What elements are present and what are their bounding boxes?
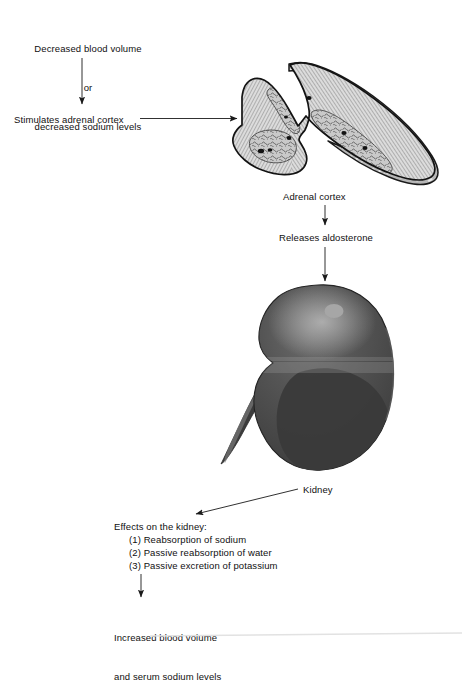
adrenal-cortex-hatching	[228, 60, 442, 190]
effect-item-3: (3) Passive excretion of potassium	[129, 559, 278, 572]
trigger-line-1: Decreased blood volume	[8, 42, 168, 55]
adrenal-body-base	[233, 63, 435, 180]
kidney-rim-light	[386, 328, 394, 420]
kidney-label: Kidney	[303, 483, 333, 496]
effects-heading: Effects on the kidney:	[114, 520, 207, 533]
kidney-ureter-highlight	[224, 362, 279, 463]
releases-aldosterone-label: Releases aldosterone	[279, 231, 373, 244]
adrenal-capsule-fat	[289, 63, 438, 185]
effect-item-1: (1) Reabsorption of sodium	[129, 533, 246, 546]
effect-item-2: (2) Passive reabsorption of water	[129, 546, 272, 559]
adrenal-cortex-label: Adrenal cortex	[283, 190, 346, 203]
kidney-ureter	[221, 360, 281, 464]
outcome-text-block: Increased blood volume and serum sodium …	[114, 605, 221, 684]
adrenal-gland-shape	[228, 60, 442, 190]
adrenal-outline	[233, 63, 435, 180]
kidney-gland-spot	[325, 304, 344, 318]
adrenal-vessel-dots	[258, 96, 368, 153]
outcome-line-1: Increased blood volume	[114, 631, 221, 644]
adrenal-medulla-left	[249, 130, 296, 163]
kidney-shape	[221, 284, 400, 479]
adrenal-medulla-right	[311, 110, 392, 173]
outcome-line-2: and serum sodium levels	[114, 670, 221, 683]
trigger-text-block: Decreased blood volume or decreased sodi…	[8, 16, 168, 159]
kidney-body	[254, 285, 394, 470]
trigger-line-2: or	[8, 81, 168, 94]
adrenal-medulla-upper	[267, 88, 300, 134]
stimulates-adrenal-cortex-label: Stimulates adrenal cortex	[14, 113, 124, 126]
kidney-shading	[250, 284, 400, 479]
arrow-kidney-label-leader	[196, 489, 298, 514]
